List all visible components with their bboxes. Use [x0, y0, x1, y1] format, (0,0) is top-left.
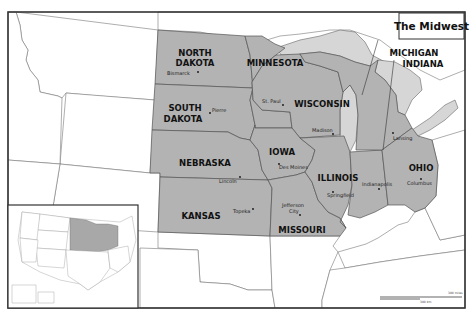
capital-dot [197, 71, 199, 73]
capital-springfield: Springfield [327, 192, 354, 199]
label-south-dakota-1: SOUTH [168, 103, 201, 113]
map-title: The Midwest [394, 20, 469, 32]
capital-bismarck: Bismarck [167, 70, 190, 76]
capital-des-moines: Des Moines [279, 164, 308, 170]
label-north-dakota-2: DAKOTA [176, 58, 215, 68]
label-michigan: MICHIGAN [390, 48, 439, 58]
title-box: The Midwest [394, 13, 469, 39]
capital-dot [392, 132, 394, 134]
state-kansas[interactable] [158, 177, 272, 236]
capital-st-paul: St. Paul [262, 98, 281, 104]
capital-indianapolis: Indianapolis [362, 181, 393, 188]
capital-lincoln: Lincoln [219, 178, 237, 184]
scale-label-miles: 300 miles [448, 291, 463, 295]
label-ohio: OHIO [409, 163, 434, 173]
label-missouri: MISSOURI [278, 225, 325, 235]
label-north-dakota-1: NORTH [178, 48, 211, 58]
label-nebraska: NEBRASKA [179, 158, 231, 168]
label-wisconsin: WISCONSIN [294, 99, 350, 109]
label-kansas: KANSAS [181, 211, 220, 221]
capital-dot [332, 191, 334, 193]
capital-dot [299, 214, 301, 216]
capital-topeka: Topeka [232, 208, 250, 215]
capital-pierre: Pierre [212, 107, 226, 113]
capital-dot [278, 163, 280, 165]
capital-madison: Madison [312, 127, 333, 133]
capital-dot [332, 133, 334, 135]
capital-dot [252, 208, 254, 210]
us-locator-inset [8, 205, 138, 308]
capital-dot [239, 176, 241, 178]
capital-dot [378, 188, 380, 190]
capital-lansing: Lansing [393, 135, 412, 142]
midwest-map: The Midwest NORTH DAKOTA SOUTH DAKOTA MI… [0, 0, 476, 319]
capital-jefferson-city-2: City [289, 208, 299, 215]
label-iowa: IOWA [269, 147, 295, 157]
capital-columbus: Columbus [407, 180, 432, 186]
capital-dot [282, 104, 284, 106]
scale-label-km: 300 km [420, 300, 431, 304]
label-illinois: ILLINOIS [318, 173, 359, 183]
label-indiana: INDIANA [403, 59, 444, 69]
label-minnesota: MINNESOTA [247, 58, 304, 68]
label-south-dakota-2: DAKOTA [164, 114, 203, 124]
capital-dot [420, 178, 422, 180]
capital-dot [209, 112, 211, 114]
